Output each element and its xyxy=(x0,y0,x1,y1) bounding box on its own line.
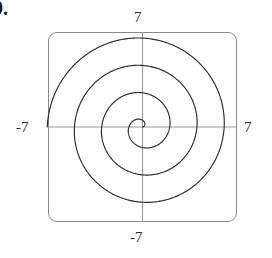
spiral-curve xyxy=(47,38,224,202)
axis-label-x-max: 7 xyxy=(244,120,252,135)
axis-label-x-min: -7 xyxy=(16,120,29,135)
axis-label-y-min: -7 xyxy=(130,230,143,245)
spiral-plot-svg xyxy=(48,32,237,222)
curve-group xyxy=(47,38,224,202)
exercise-number: 9. xyxy=(0,0,8,18)
figure-container: 9. 7 -7 -7 7 xyxy=(0,0,272,258)
axis-label-y-max: 7 xyxy=(134,10,142,25)
plot-area xyxy=(48,32,237,222)
